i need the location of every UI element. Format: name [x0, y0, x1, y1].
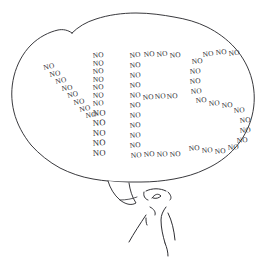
no-word: NO	[156, 48, 169, 59]
no-word: NO	[239, 125, 251, 135]
no-word: NO	[129, 80, 141, 90]
no-word: NO	[129, 90, 141, 100]
no-word: NO	[221, 100, 233, 110]
no-word: NO	[201, 145, 213, 155]
no-word: NO	[143, 149, 155, 159]
no-word: NO	[188, 143, 200, 153]
no-word: NO	[169, 149, 181, 159]
no-word: NO	[189, 66, 201, 76]
no-word: NO	[129, 49, 142, 60]
no-word: NO	[233, 105, 245, 115]
no-word: NO	[208, 98, 220, 108]
no-word: NO	[228, 47, 241, 58]
no-word: NO	[189, 76, 201, 86]
no-word: NO	[195, 95, 207, 105]
no-word: NO	[142, 92, 154, 102]
cartoon-scene: NO NO NO NO NO NO NO NO NO NO NO NO NO N…	[0, 0, 273, 264]
no-word: NO	[129, 70, 141, 80]
no-word: NO	[239, 115, 251, 125]
no-word: NO	[92, 137, 105, 148]
no-word: NO	[156, 149, 168, 159]
no-word: NO	[129, 100, 141, 110]
no-word: NO	[166, 91, 178, 101]
no-word: NO	[214, 146, 226, 156]
no-word: NO	[93, 147, 106, 158]
no-word: NO	[129, 60, 141, 70]
no-word: NO	[202, 48, 215, 59]
no-word: NO	[129, 110, 141, 120]
no-word: NO	[129, 120, 141, 130]
no-word: NO	[143, 49, 155, 59]
no-word: NO	[130, 150, 142, 160]
no-word: NO	[92, 117, 105, 128]
no-word: NO	[129, 130, 141, 140]
no-word: NO	[169, 50, 181, 60]
no-word: NO	[215, 47, 227, 57]
drawing-canvas: Speech bubble spelling YES out of the wo…	[0, 0, 273, 264]
no-word: NO	[129, 140, 141, 150]
no-word: NO	[191, 56, 203, 66]
no-word: NO	[154, 91, 166, 101]
no-word: NO	[227, 142, 239, 152]
